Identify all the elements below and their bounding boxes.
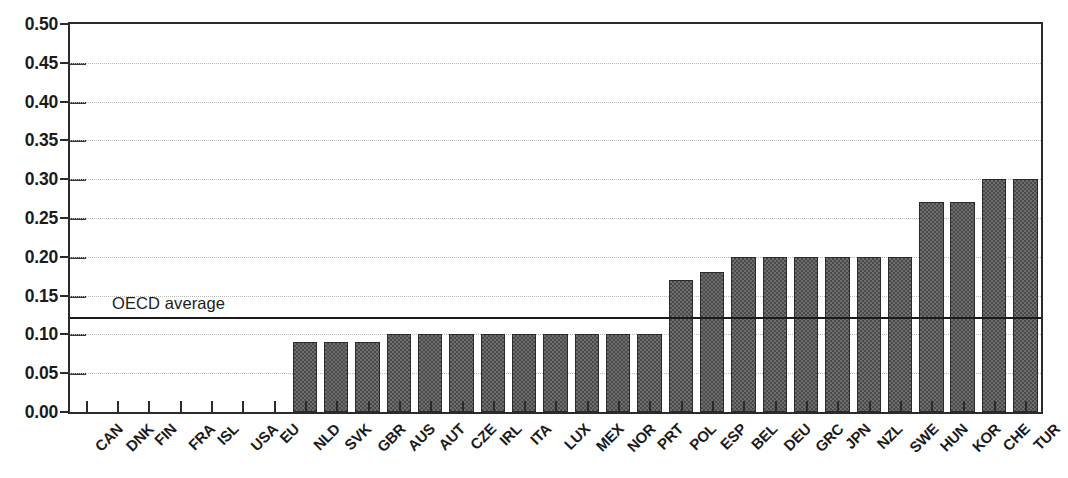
x-axis-tick-mark bbox=[618, 401, 620, 412]
x-axis-category-label: TUR bbox=[1030, 420, 1063, 453]
x-axis-tick-mark bbox=[712, 401, 714, 412]
x-axis-tick-mark bbox=[493, 401, 495, 412]
bar-slot bbox=[509, 24, 540, 412]
bar-slot bbox=[477, 24, 508, 412]
bar-slot bbox=[665, 24, 696, 412]
x-axis-tick-mark bbox=[649, 401, 651, 412]
x-axis-category-label: GRC bbox=[812, 420, 847, 455]
bar-slot bbox=[790, 24, 821, 412]
x-axis-category-label: MEX bbox=[592, 420, 627, 455]
bar[interactable] bbox=[950, 202, 974, 412]
bar[interactable] bbox=[825, 257, 849, 412]
y-axis-tick-mark bbox=[60, 62, 68, 64]
y-axis-tick-mark bbox=[60, 411, 68, 413]
x-axis-category-label: ESP bbox=[717, 420, 750, 453]
bar-slot bbox=[696, 24, 727, 412]
y-axis-tick-mark bbox=[60, 295, 68, 297]
x-axis-tick-mark bbox=[806, 401, 808, 412]
x-axis-category-label: AUT bbox=[435, 420, 468, 453]
bar[interactable] bbox=[982, 179, 1006, 412]
y-axis-tick-label: 0.45 bbox=[25, 52, 58, 73]
bar-slot bbox=[383, 24, 414, 412]
y-axis-tick-label: 0.25 bbox=[25, 208, 58, 229]
x-axis-category-label: SWE bbox=[906, 420, 942, 456]
bar-slot bbox=[728, 24, 759, 412]
x-axis-category-label: EU bbox=[276, 420, 302, 446]
x-axis-tick-mark bbox=[900, 401, 902, 412]
x-axis-category-label: FRA bbox=[184, 420, 217, 453]
x-axis-category-label: ISL bbox=[214, 420, 242, 448]
bar[interactable] bbox=[919, 202, 943, 412]
chart-container: 0.500.450.400.350.300.250.200.150.100.05… bbox=[0, 0, 1068, 478]
x-axis-category-label: HUN bbox=[937, 420, 972, 455]
x-axis-tick-mark bbox=[305, 401, 307, 412]
bar-slot bbox=[759, 24, 790, 412]
bar-slot bbox=[321, 24, 352, 412]
bar-series bbox=[70, 24, 1041, 412]
x-axis-tick-mark bbox=[211, 401, 213, 412]
bar-slot bbox=[133, 24, 164, 412]
x-axis-tick-mark bbox=[368, 401, 370, 412]
x-axis-category-label: IRL bbox=[496, 420, 525, 449]
y-axis-tick-mark bbox=[60, 139, 68, 141]
bar[interactable] bbox=[763, 257, 787, 412]
x-axis-category-label: AUS bbox=[404, 420, 438, 454]
x-axis-tick-mark bbox=[555, 401, 557, 412]
bar-slot bbox=[195, 24, 226, 412]
x-axis-tick-mark bbox=[148, 401, 150, 412]
y-axis-tick-label: 0.05 bbox=[25, 363, 58, 384]
bar-slot bbox=[571, 24, 602, 412]
bar[interactable] bbox=[1013, 179, 1037, 412]
x-axis-category-label: NZL bbox=[873, 420, 905, 452]
bar-slot bbox=[446, 24, 477, 412]
bar-slot bbox=[415, 24, 446, 412]
x-axis-tick-mark bbox=[117, 401, 119, 412]
x-axis-category-label: FIN bbox=[151, 420, 180, 449]
y-axis-tick-label: 0.50 bbox=[25, 14, 58, 35]
y-axis-tick-mark bbox=[60, 256, 68, 258]
bar[interactable] bbox=[700, 272, 724, 412]
x-axis-tick-mark bbox=[399, 401, 401, 412]
bar[interactable] bbox=[857, 257, 881, 412]
bar-slot bbox=[822, 24, 853, 412]
y-axis-tick-mark bbox=[60, 178, 68, 180]
y-axis-tick-mark bbox=[60, 372, 68, 374]
x-axis-tick-mark bbox=[681, 401, 683, 412]
x-axis-category-label: KOR bbox=[968, 420, 1003, 455]
oecd-average-label: OECD average bbox=[112, 294, 225, 313]
x-axis-category-label: CHE bbox=[999, 420, 1033, 454]
bar-slot bbox=[227, 24, 258, 412]
x-axis-tick-mark bbox=[242, 401, 244, 412]
bar-slot bbox=[947, 24, 978, 412]
x-axis-tick-mark bbox=[1025, 401, 1027, 412]
x-axis-category-label: CZE bbox=[466, 420, 499, 453]
x-axis-tick-mark bbox=[86, 401, 88, 412]
x-axis-category-labels: CANDNKFINFRAISLUSAEUNLDSVKGBRAUSAUTCZEIR… bbox=[68, 416, 1043, 478]
x-axis-category-label: POL bbox=[686, 420, 719, 453]
x-axis-category-label: DEU bbox=[780, 420, 814, 454]
y-axis-tick-label: 0.10 bbox=[25, 324, 58, 345]
bar-slot bbox=[101, 24, 132, 412]
x-axis-category-label: USA bbox=[247, 420, 281, 454]
bar-slot bbox=[258, 24, 289, 412]
y-axis-tick-label: 0.40 bbox=[25, 91, 58, 112]
bar[interactable] bbox=[669, 280, 693, 412]
plot-area: OECD average bbox=[68, 22, 1043, 414]
x-axis-tick-mark bbox=[587, 401, 589, 412]
bar-slot bbox=[634, 24, 665, 412]
bar-slot bbox=[602, 24, 633, 412]
bar[interactable] bbox=[794, 257, 818, 412]
x-axis-tick-mark bbox=[837, 401, 839, 412]
x-axis-category-label: ITA bbox=[527, 420, 555, 448]
x-axis-tick-mark bbox=[775, 401, 777, 412]
y-axis-tick-label: 0.30 bbox=[25, 169, 58, 190]
x-axis-category-label: GBR bbox=[373, 420, 408, 455]
bar-slot bbox=[884, 24, 915, 412]
bar[interactable] bbox=[888, 257, 912, 412]
bar-slot bbox=[978, 24, 1009, 412]
y-axis-tick-labels: 0.500.450.400.350.300.250.200.150.100.05… bbox=[0, 0, 66, 478]
bar[interactable] bbox=[731, 257, 755, 412]
bar-slot bbox=[853, 24, 884, 412]
x-axis-category-label: PRT bbox=[654, 420, 687, 453]
x-axis-tick-mark bbox=[963, 401, 965, 412]
